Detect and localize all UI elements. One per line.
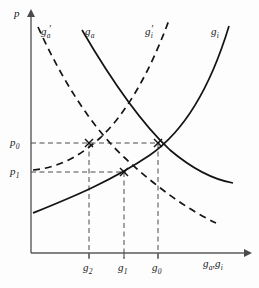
- curve-label-g-a-prime: ga′: [41, 26, 52, 37]
- curve-g-i: [33, 26, 229, 213]
- curves-group: [33, 20, 233, 223]
- curve-label-g-i: gi: [211, 26, 219, 37]
- x-tick-label-g0: g0: [152, 262, 161, 273]
- curve-g-i-prime: [33, 20, 169, 170]
- y-tick-label-p1: p1: [10, 166, 19, 177]
- y-tick-label-p0: p0: [10, 137, 19, 148]
- curve-label-g-a: ga: [85, 26, 94, 37]
- curve-g-a-prime: [38, 27, 216, 223]
- axes-group: [31, 16, 245, 253]
- chart-canvas: [0, 0, 259, 288]
- x-tick-label-g1: g1: [118, 262, 127, 273]
- y-axis-label: p: [14, 8, 20, 19]
- curve-label-g-i-prime: gi′: [145, 26, 155, 37]
- x-axis-label: ga,gi: [203, 258, 223, 269]
- x-tick-label-g2: g2: [83, 262, 92, 273]
- x-tick-marks-group: [89, 253, 158, 259]
- supply-demand-chart: p ga,gi ga′ ga gi′ gi p0 p1 g2 g1 g0: [0, 0, 259, 288]
